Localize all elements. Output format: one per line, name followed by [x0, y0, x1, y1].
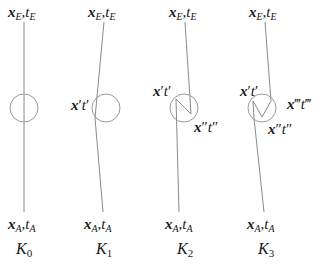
x-symbol: x	[88, 4, 96, 20]
k3-top-label: xE,tE	[249, 5, 277, 22]
k-symbol: K	[258, 240, 269, 257]
k1-event-prime-label: x′t′	[71, 98, 89, 113]
x-symbol: x	[194, 119, 202, 135]
prime: ″	[286, 121, 292, 137]
k2-worldline	[176, 22, 191, 212]
subscript: E	[110, 11, 116, 22]
prime: ″	[212, 119, 218, 135]
k-symbol: K	[16, 240, 27, 257]
x-symbol: x	[153, 83, 161, 99]
prime: ′	[86, 97, 89, 113]
k3-bottom-label: xA,tA	[247, 217, 275, 234]
k1-panel-name: K1	[96, 241, 112, 259]
k-symbol: K	[177, 240, 188, 257]
subscript: A	[269, 223, 275, 234]
subscript: 3	[269, 247, 275, 259]
subscript: A	[30, 223, 36, 234]
x-symbol: x	[165, 216, 173, 232]
k3-worldline	[253, 22, 271, 212]
x-symbol: x	[84, 216, 92, 232]
x-symbol: x	[268, 121, 276, 137]
k2-panel-name: K2	[177, 241, 193, 259]
subscript: E	[271, 11, 277, 22]
k3-panel-name: K3	[258, 241, 274, 259]
k1-top-label: xE,tE	[88, 5, 116, 22]
prime: ‴	[305, 96, 311, 112]
k0-panel-name: K0	[16, 241, 32, 259]
subscript: E	[191, 11, 197, 22]
prime: ′	[168, 83, 171, 99]
k2-event-prime-label: x′t′	[153, 84, 171, 99]
k3-event-double-prime-label: x″t″	[268, 122, 292, 137]
k1-bottom-label: xA,tA	[84, 217, 112, 234]
subscript: 0	[27, 247, 33, 259]
k2-bottom-label: xA,tA	[165, 217, 193, 234]
subscript: 2	[188, 247, 194, 259]
x-symbol: x	[240, 83, 248, 99]
subscript: A	[187, 223, 193, 234]
k2-circle	[170, 94, 198, 122]
prime: ′	[255, 83, 258, 99]
x-symbol: x	[169, 4, 177, 20]
x-symbol: x	[247, 216, 255, 232]
subscript: E	[30, 11, 36, 22]
k0-bottom-label: xA,tA	[8, 217, 36, 234]
x-symbol: x	[287, 96, 295, 112]
k0-top-label: xE,tE	[8, 5, 36, 22]
x-symbol: x	[71, 97, 79, 113]
k3-event-prime-label: x′t′	[240, 84, 258, 99]
panel-k0-graphics	[10, 22, 38, 212]
k2-top-label: xE,tE	[169, 5, 197, 22]
k3-event-triple-prime-label: x‴t‴	[287, 97, 311, 112]
x-symbol: x	[8, 216, 16, 232]
subscript: 1	[107, 247, 113, 259]
k-symbol: K	[96, 240, 107, 257]
x-symbol: x	[8, 4, 16, 20]
panel-k2-graphics	[170, 22, 198, 212]
panel-k3-graphics	[248, 22, 276, 212]
k1-worldline	[95, 22, 104, 212]
panel-k1-graphics	[92, 22, 120, 212]
k2-event-double-prime-label: x″t″	[194, 120, 218, 135]
subscript: A	[106, 223, 112, 234]
x-symbol: x	[249, 4, 257, 20]
